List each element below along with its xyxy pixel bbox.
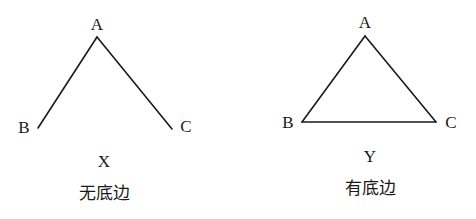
figure-y: A B C Y 有底边	[282, 13, 456, 198]
figure-letter: Y	[364, 147, 376, 166]
vertex-label-a: A	[91, 15, 104, 34]
figure-caption: 无底边	[79, 183, 130, 203]
vertex-label-c: C	[445, 113, 456, 132]
vertex-label-c: C	[180, 117, 191, 136]
vertex-label-a: A	[359, 13, 372, 32]
vertex-label-b: B	[18, 118, 29, 137]
vertex-label-b: B	[282, 113, 293, 132]
diagram-canvas: A B C X 无底边 A B C Y 有底边	[0, 0, 476, 219]
edge-ab	[38, 37, 97, 128]
edge-ac	[97, 37, 172, 129]
figure-x: A B C X 无底边	[18, 15, 191, 203]
edge-ab	[302, 36, 365, 122]
figure-letter: X	[98, 152, 110, 171]
edge-ac	[365, 36, 436, 122]
figure-caption: 有底边	[345, 178, 396, 198]
